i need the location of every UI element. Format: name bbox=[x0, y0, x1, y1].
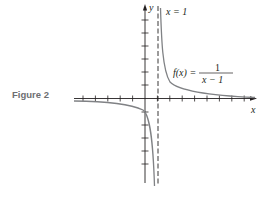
y-axis-arrow-icon bbox=[143, 4, 147, 11]
function-label-lhs: f(x) = bbox=[173, 67, 196, 79]
function-label-numerator: 1 bbox=[215, 62, 220, 73]
asymptote-label: x = 1 bbox=[165, 6, 187, 17]
y-axis bbox=[142, 4, 149, 183]
x-axis-label: x bbox=[250, 104, 256, 115]
function-curve bbox=[74, 8, 255, 186]
function-label-denominator: x − 1 bbox=[201, 74, 223, 85]
function-graph: y x = 1 f(x) = 1 x − 1 x bbox=[0, 0, 271, 197]
y-axis-label: y bbox=[148, 2, 154, 13]
